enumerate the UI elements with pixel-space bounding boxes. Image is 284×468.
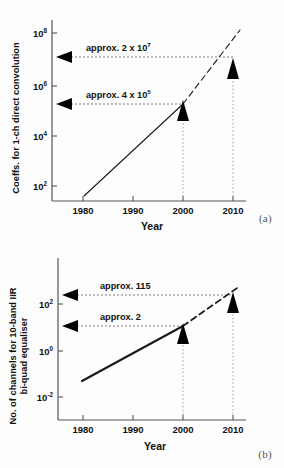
chart-b-annotation-upper: approx. 115 xyxy=(100,281,151,291)
chart-a-yticklabel-6: 106 xyxy=(33,80,48,92)
chart-a-canvas: Coeffs. for 1-ch direct convolution 108 … xyxy=(0,0,284,234)
chart-b-annotation-arrow-lower xyxy=(62,320,78,332)
chart-b-annotation-arrow-upper xyxy=(62,289,78,301)
chart-b-canvas: No. of channels for 10-band IIR bi-quad … xyxy=(0,234,284,468)
chart-b-xticklabel-2010: 2010 xyxy=(222,424,243,435)
chart-b-x-axis-title: Year xyxy=(144,440,166,452)
chart-a-yticklabel-2: 102 xyxy=(33,180,48,192)
chart-a-x-axis-title: Year xyxy=(141,220,163,232)
chart-a-marker-2010 xyxy=(227,58,239,79)
chart-b-xticklabel-1990: 1990 xyxy=(122,424,143,435)
chart-a-annotation-upper: approx. 2 x 107 xyxy=(86,41,151,53)
chart-a-xticklabel-1980: 1980 xyxy=(72,205,93,216)
chart-b-annotation-lower: approx. 2 xyxy=(100,312,141,322)
chart-b-xticklabel-1980: 1980 xyxy=(72,424,93,435)
chart-a-xticklabel-1990: 1990 xyxy=(122,205,143,216)
figure-panel-b: No. of channels for 10-band IIR bi-quad … xyxy=(0,234,284,468)
chart-a-annotation-lower: approx. 4 x 105 xyxy=(86,88,151,100)
chart-a-marker-2000 xyxy=(177,100,189,121)
chart-a-yticklabel-8: 108 xyxy=(33,27,48,39)
chart-b-xticklabel-2000: 2000 xyxy=(172,424,193,435)
chart-b-marker-2010 xyxy=(227,292,239,313)
chart-a-annotation-arrow-lower xyxy=(56,98,72,110)
chart-b-yticklabel-0: 100 xyxy=(39,345,54,357)
chart-a-annotation-arrow-upper xyxy=(56,51,72,63)
chart-b-yticklabel-2: 102 xyxy=(39,298,54,310)
chart-b-yticklabel-neg2: 10-2 xyxy=(37,391,54,403)
figure-panel-a: Coeffs. for 1-ch direct convolution 108 … xyxy=(0,0,284,234)
panel-label-a: (a) xyxy=(259,212,272,224)
chart-b-y-axis-title-line1: No. of channels for 10-band IIR xyxy=(8,287,18,424)
chart-a-y-axis-title: Coeffs. for 1-ch direct convolution xyxy=(11,42,21,194)
chart-b-series-historical xyxy=(82,326,183,381)
panel-label-b: (b) xyxy=(258,448,272,460)
chart-a-series-historical xyxy=(84,104,183,196)
chart-a-yticklabel-4: 104 xyxy=(33,130,48,142)
chart-a-xticklabel-2000: 2000 xyxy=(172,205,193,216)
chart-a-xticklabel-2010: 2010 xyxy=(222,205,243,216)
chart-b-y-axis-title-line2: bi-quad equaliser xyxy=(19,317,29,394)
